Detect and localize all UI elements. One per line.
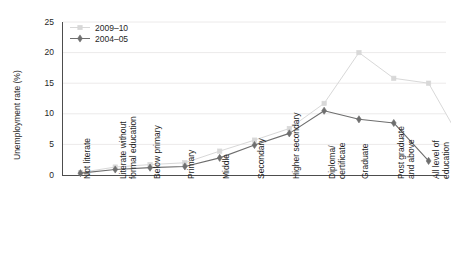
data-point [217,149,221,153]
y-axis-tick: 10 [32,109,54,118]
legend-diamond-icon [70,33,90,44]
legend-label: 2004–05 [95,34,128,44]
data-point [357,116,362,123]
x-axis-tick: Graduate [361,144,371,179]
x-axis-tick: Post graduate and above [397,126,416,179]
legend-square-icon [70,22,90,33]
x-axis-tick: Not literate [83,138,93,179]
x-axis-tick: Below primary [153,125,163,179]
chart-legend: 2009–102004–05 [70,22,128,44]
x-axis-tick: Higher secondary [292,112,302,179]
y-axis-tick-labels: 2520151050 [28,0,54,279]
data-point [322,101,326,105]
x-axis-tick: All level of education [432,140,451,179]
x-axis-tick: Diploma/ certificate [328,143,347,179]
y-axis-tick: 25 [32,18,54,27]
x-axis-tick: Secondary [257,138,267,179]
x-axis-tick: Primary [187,150,197,179]
data-point [357,50,361,54]
legend-entry: 2004–05 [70,33,128,44]
data-point [392,76,396,80]
data-point [322,107,327,114]
y-axis-tick: 0 [32,171,54,180]
y-axis-tick: 15 [32,79,54,88]
legend-label: 2009–10 [95,23,128,33]
y-axis-title: Unemployment rate (%) [12,70,22,160]
legend-entry: 2009–10 [70,22,128,33]
data-point [426,81,430,85]
y-axis-tick: 5 [32,140,54,149]
x-axis-tick: Middle [222,154,232,179]
y-axis-tick: 20 [32,48,54,57]
x-axis-tick: Literate without formal education [119,116,138,179]
